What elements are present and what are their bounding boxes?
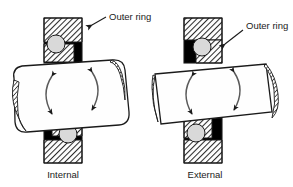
external-caption: External — [188, 169, 223, 180]
internal-lower-outer-ring — [44, 140, 82, 163]
internal-upper-bearing — [44, 18, 82, 63]
internal-shaft-block — [12, 60, 129, 132]
internal-upper-ball — [47, 35, 65, 53]
internal-callout-label: Outer ring — [109, 11, 151, 22]
internal-caption: Internal — [47, 169, 79, 180]
internal-callout: Outer ring — [92, 11, 151, 25]
external-lower-bearing — [184, 118, 222, 163]
external-callout-leader — [225, 30, 243, 44]
assembly-external: Outer ring External — [152, 18, 288, 180]
external-block-body — [155, 64, 272, 124]
internal-block-body — [14, 60, 129, 132]
external-upper-bearing — [184, 18, 222, 63]
internal-callout-leader — [92, 17, 106, 25]
bearing-arrangement-diagram: Outer ring Internal — [0, 0, 293, 187]
external-shaft-block — [152, 64, 278, 124]
external-lower-outer-ring — [184, 140, 222, 163]
external-callout: Outer ring — [225, 20, 288, 44]
diagram-svg: Outer ring Internal — [0, 0, 293, 187]
external-upper-ball — [193, 38, 211, 56]
external-upper-outer-ring — [184, 18, 222, 40]
external-lower-ball — [187, 124, 205, 142]
assembly-internal: Outer ring Internal — [12, 11, 151, 180]
external-callout-label: Outer ring — [246, 20, 288, 31]
